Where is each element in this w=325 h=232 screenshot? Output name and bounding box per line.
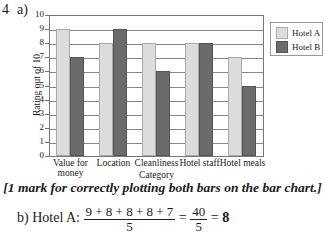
x-tick-label: Hotel meals: [213, 158, 273, 168]
y-tick-label: 3: [30, 108, 44, 118]
total-numerator: 40: [190, 204, 207, 220]
x-axis-label: Category: [49, 170, 264, 180]
legend-label-hotel-b: Hotel B: [292, 42, 320, 52]
bar-hotel-a: [185, 43, 199, 156]
y-tick-label: 7: [30, 51, 44, 61]
legend-swatch-hotel-a: [276, 27, 288, 39]
equals-sign: =: [179, 210, 187, 225]
chart-legend: Hotel A Hotel B: [270, 22, 323, 56]
sum-numerator: 9 + 8 + 8 + 8 + 7: [84, 204, 176, 220]
bar-hotel-b: [242, 86, 256, 157]
y-tick-label: 4: [30, 94, 44, 104]
marking-note: [1 mark for correctly plotting both bars…: [0, 180, 325, 196]
sum-denominator: 5: [84, 220, 176, 232]
y-tick-label: 6: [30, 65, 44, 75]
y-tick-label: 1: [30, 136, 44, 146]
bar-hotel-b: [70, 57, 84, 156]
legend-label-hotel-a: Hotel A: [292, 28, 320, 38]
bar-hotel-b: [113, 29, 127, 156]
total-fraction: 40 5: [190, 204, 207, 232]
bar-hotel-a: [142, 43, 156, 156]
bar-hotel-a: [99, 43, 113, 156]
bar-hotel-a: [56, 29, 70, 156]
bar-hotel-a: [228, 57, 242, 156]
legend-swatch-hotel-b: [276, 41, 288, 53]
gridline: [50, 44, 263, 45]
question-number: 4: [2, 2, 9, 18]
part-a-label: a): [17, 2, 28, 18]
plot-area: [49, 15, 264, 157]
y-tick-label: 8: [30, 37, 44, 47]
sum-fraction: 9 + 8 + 8 + 8 + 7 5: [84, 204, 176, 232]
bar-hotel-b: [156, 71, 170, 156]
part-b-label: b) Hotel A:: [17, 210, 80, 225]
part-b-working: b) Hotel A: 9 + 8 + 8 + 8 + 7 5 = 40 5 =…: [17, 204, 229, 232]
equals-sign: =: [211, 210, 219, 225]
mean-result: 8: [222, 210, 229, 225]
total-denominator: 5: [190, 220, 207, 232]
y-tick-label: 2: [30, 122, 44, 132]
gridline: [50, 30, 263, 31]
y-tick-label: 5: [30, 80, 44, 90]
y-tick-label: 10: [30, 9, 44, 19]
y-tick-label: 9: [30, 23, 44, 33]
bar-hotel-b: [199, 43, 213, 156]
